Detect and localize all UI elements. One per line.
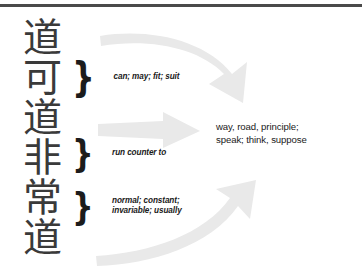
- gloss-label-1: can; may; fit; suit: [113, 72, 179, 83]
- hanzi-char-4: 非: [23, 138, 62, 178]
- gloss-group-2: } run counter to: [72, 131, 166, 175]
- gloss-label-2: run counter to: [112, 148, 166, 159]
- brace-icon-2: }: [72, 131, 94, 175]
- brace-icon-3: }: [72, 184, 94, 228]
- hanzi-char-1: 道: [23, 18, 62, 58]
- translation-text: way, road, principle; speak; think, supp…: [216, 120, 356, 146]
- hanzi-char-2: 可: [23, 58, 62, 98]
- chinese-character-column: 道 可 道 非 常 道: [14, 18, 70, 258]
- hanzi-char-5: 常: [23, 178, 62, 218]
- hanzi-char-3: 道: [23, 98, 62, 138]
- hanzi-char-6: 道: [23, 218, 62, 258]
- gloss-group-3: } normal; constant; invariable; usually: [72, 184, 182, 228]
- gloss-label-3: normal; constant; invariable; usually: [112, 196, 182, 217]
- gloss-group-1: } can; may; fit; suit: [72, 54, 179, 100]
- top-divider-rule: [0, 4, 362, 7]
- diagram-canvas: 道 可 道 非 常 道 } can; may; fit; suit } run …: [0, 0, 362, 269]
- brace-icon-1: }: [72, 54, 95, 100]
